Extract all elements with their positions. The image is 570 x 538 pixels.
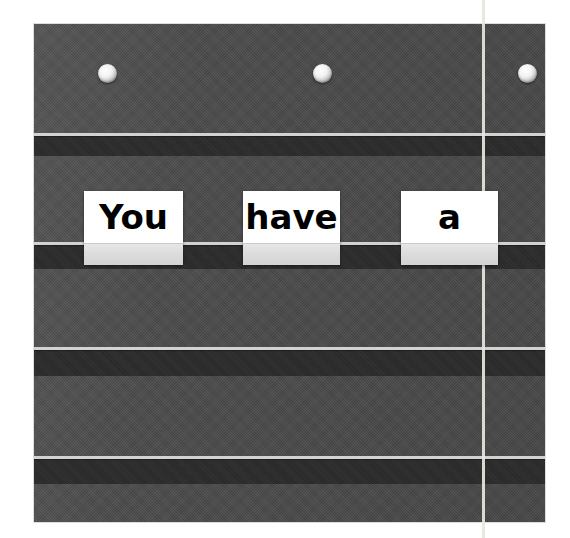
word-card-text: You: [99, 200, 168, 234]
vertical-strap-line: [482, 0, 485, 538]
pocket-rail-1: [34, 133, 545, 136]
grommet-center-icon: [313, 64, 332, 83]
word-card[interactable]: You: [84, 191, 183, 265]
word-card-text: a: [438, 200, 461, 234]
pocket-chart-scene: Youhavea: [0, 0, 570, 538]
grommet-left-icon: [98, 64, 117, 83]
pocket-chart-board: [34, 24, 545, 522]
word-card[interactable]: a: [401, 191, 498, 265]
pocket-rail-4-band: [34, 459, 545, 484]
word-card-tucked-edge: [243, 243, 340, 265]
word-card-tucked-edge: [84, 243, 183, 265]
pocket-rail-1-band: [34, 136, 545, 156]
pocket-rail-3-band: [34, 350, 545, 376]
fabric-shading: [34, 24, 545, 522]
word-card-face: a: [401, 191, 498, 243]
grommet-right-icon: [518, 64, 537, 83]
word-card-face: You: [84, 191, 183, 243]
word-card-text: have: [245, 200, 337, 234]
pocket-rail-3: [34, 347, 545, 350]
word-card-face: have: [243, 191, 340, 243]
word-card[interactable]: have: [243, 191, 340, 265]
pocket-rail-4: [34, 456, 545, 459]
word-card-tucked-edge: [401, 243, 498, 265]
